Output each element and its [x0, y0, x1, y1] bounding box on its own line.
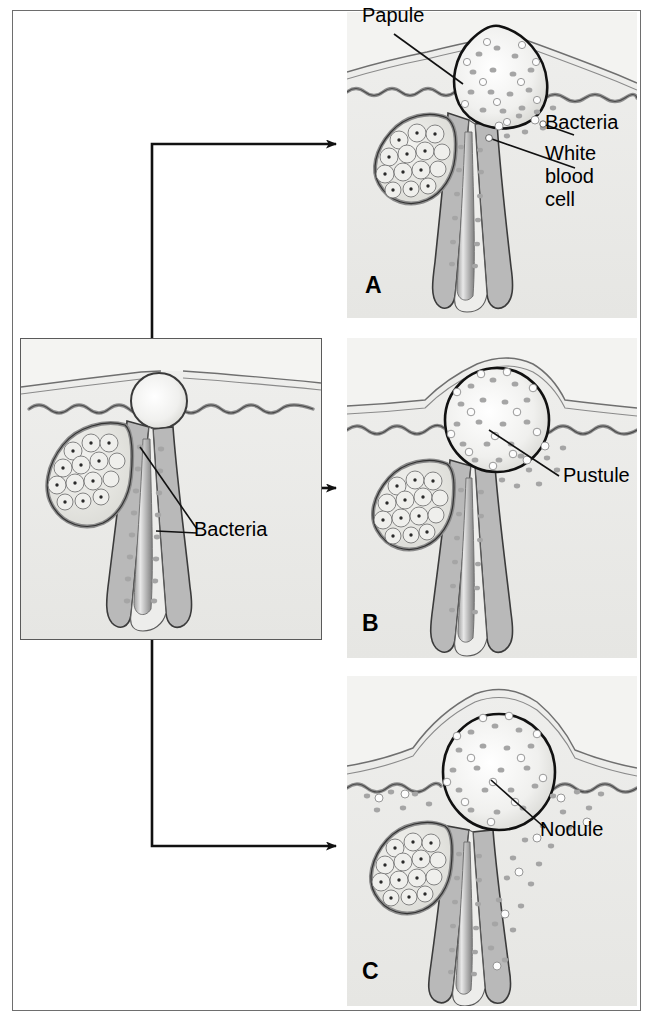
- label-bacteria-panel-a: Bacteria: [545, 111, 618, 134]
- panel-c-nodule: [347, 676, 637, 1006]
- label-nodule: Nodule: [540, 818, 603, 841]
- label-pustule: Pustule: [563, 464, 630, 487]
- label-white-blood-cell: White blood cell: [545, 142, 596, 211]
- panel-letter-a: A: [365, 272, 382, 299]
- panel-c-illustration: [347, 676, 637, 1006]
- panel-letter-b: B: [362, 610, 379, 637]
- center-illustration: [21, 339, 321, 639]
- panel-center-comedo: [20, 338, 322, 640]
- panel-b-pustule: [347, 338, 637, 658]
- pustule-lesion: [445, 368, 549, 472]
- panel-letter-c: C: [362, 958, 379, 985]
- comedo-plug: [131, 373, 187, 429]
- label-papule: Papule: [362, 4, 424, 27]
- panel-b-illustration: [347, 338, 637, 658]
- label-bacteria-center: Bacteria: [194, 518, 267, 541]
